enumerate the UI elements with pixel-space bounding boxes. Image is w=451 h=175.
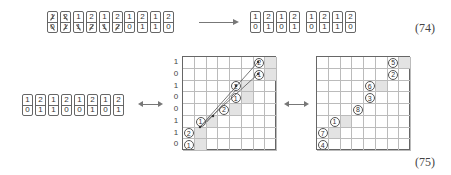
grid-cell bbox=[352, 128, 364, 140]
domino-tile: 22 bbox=[86, 11, 97, 33]
circled-number: 2 bbox=[219, 105, 229, 115]
row-label: 0 bbox=[172, 69, 180, 78]
grid-cell bbox=[242, 92, 254, 104]
grid-cell bbox=[352, 139, 364, 151]
domino-tile: 10 bbox=[124, 11, 135, 33]
domino-top: 1 bbox=[151, 12, 160, 23]
domino-bottom: 0 bbox=[75, 106, 84, 116]
arrow-head-right-icon bbox=[158, 101, 163, 107]
domino-tile: 10 bbox=[100, 94, 111, 116]
grid-cell bbox=[242, 104, 254, 116]
grid-cell bbox=[399, 92, 411, 104]
domino-tile: 11 bbox=[150, 11, 161, 33]
grid-cell bbox=[317, 104, 329, 116]
domino-tile: 10 bbox=[306, 11, 317, 33]
grid-cell bbox=[352, 69, 364, 81]
grid-cell bbox=[207, 57, 219, 69]
grid-cell bbox=[254, 81, 266, 93]
domino-top: 1 bbox=[48, 12, 57, 23]
grid-cell bbox=[341, 81, 353, 93]
grid-cell bbox=[388, 128, 400, 140]
grid-cell bbox=[317, 92, 329, 104]
domino-tile: 10 bbox=[22, 94, 33, 116]
domino-tile: 11 bbox=[99, 11, 110, 33]
grid-cell bbox=[399, 69, 411, 81]
domino-strip-long: 1021112010211021 bbox=[22, 94, 124, 116]
circled-number: 1 bbox=[330, 117, 340, 127]
grid-cell bbox=[183, 92, 195, 104]
grid-cell bbox=[207, 81, 219, 93]
arrow-head-icon bbox=[233, 19, 239, 25]
grid-cell bbox=[399, 57, 411, 69]
domino-bottom: 1 bbox=[114, 106, 123, 116]
grid-cell bbox=[195, 69, 207, 81]
grid-cell bbox=[329, 128, 341, 140]
grid-cell bbox=[265, 81, 277, 93]
grid-cell bbox=[254, 92, 266, 104]
grid-cell bbox=[183, 69, 195, 81]
grid-cell bbox=[254, 104, 266, 116]
domino-bottom: 1 bbox=[138, 23, 147, 33]
grid-cell bbox=[242, 128, 254, 140]
grid-cell bbox=[195, 139, 207, 151]
domino-bottom: 1 bbox=[100, 23, 109, 33]
grid-cell bbox=[376, 69, 388, 81]
domino-top: 2 bbox=[290, 12, 299, 23]
grid-cell bbox=[376, 128, 388, 140]
domino-top: 2 bbox=[88, 95, 97, 106]
domino-top: 2 bbox=[138, 12, 147, 23]
domino-bottom: 0 bbox=[251, 23, 260, 33]
grid-cell bbox=[230, 69, 242, 81]
domino-top: 1 bbox=[75, 95, 84, 106]
grid-cell bbox=[341, 57, 353, 69]
domino-top: 2 bbox=[113, 12, 122, 23]
grid-cell bbox=[207, 128, 219, 140]
grid-cell bbox=[364, 128, 376, 140]
grid-cell bbox=[352, 81, 364, 93]
double-arrow-icon bbox=[141, 104, 159, 105]
grid-cell bbox=[329, 92, 341, 104]
domino-top: 2 bbox=[87, 12, 96, 23]
domino-bottom: 1 bbox=[151, 23, 160, 33]
grid-cell bbox=[254, 139, 266, 151]
domino-tile: 21 bbox=[289, 11, 300, 33]
equation-number-75: (75) bbox=[415, 155, 435, 170]
right-grid: 52638174 bbox=[316, 56, 410, 150]
grid-cell bbox=[254, 128, 266, 140]
circled-number: 2 bbox=[388, 70, 398, 80]
domino-tile: 11 bbox=[332, 11, 343, 33]
domino-tile: 20 bbox=[163, 11, 174, 33]
domino-bottom: 1 bbox=[290, 23, 299, 33]
grid-cell bbox=[218, 57, 230, 69]
domino-top: 1 bbox=[101, 95, 110, 106]
grid-cell bbox=[254, 116, 266, 128]
grid-cell bbox=[352, 116, 364, 128]
grid-cell bbox=[399, 104, 411, 116]
grid-cell bbox=[388, 139, 400, 151]
grid-cell bbox=[242, 69, 254, 81]
grid-cell bbox=[218, 139, 230, 151]
grid-cell bbox=[341, 104, 353, 116]
domino-top: 2 bbox=[114, 95, 123, 106]
grid-cell bbox=[195, 81, 207, 93]
grid-cell bbox=[195, 128, 207, 140]
grid-cell bbox=[376, 92, 388, 104]
crossed-domino-strip: 102111221122 bbox=[47, 11, 123, 33]
domino-top: 1 bbox=[333, 12, 342, 23]
domino-tile: 10 bbox=[276, 11, 287, 33]
double-arrow-icon-2 bbox=[287, 104, 305, 105]
grid-cell bbox=[195, 57, 207, 69]
grid-cell bbox=[242, 116, 254, 128]
grid-cell bbox=[399, 116, 411, 128]
grid-cell bbox=[376, 81, 388, 93]
domino-strip-c: 10211120 bbox=[306, 11, 356, 33]
grid-cell bbox=[399, 81, 411, 93]
grid-cell bbox=[218, 128, 230, 140]
right-arrow-icon bbox=[199, 22, 235, 23]
domino-bottom: 1 bbox=[88, 106, 97, 116]
domino-top: 1 bbox=[251, 12, 260, 23]
grid-cell bbox=[207, 139, 219, 151]
domino-top: 2 bbox=[346, 12, 355, 23]
grid-cell bbox=[207, 104, 219, 116]
grid-cell bbox=[195, 104, 207, 116]
